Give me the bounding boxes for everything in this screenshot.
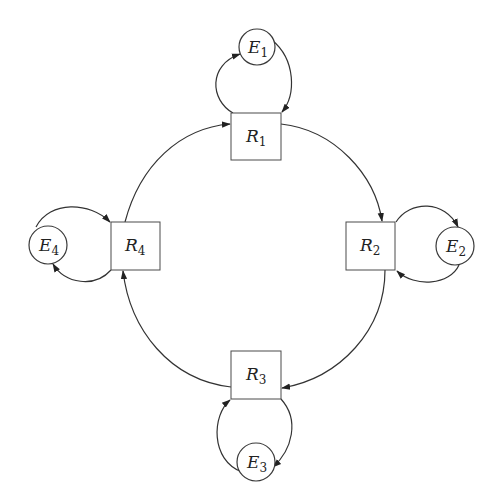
edge-e4-to-r4 xyxy=(36,207,110,227)
edge-r1-to-e1 xyxy=(216,54,240,113)
edge-r2-to-e2 xyxy=(396,206,458,227)
edge-r4-to-e4 xyxy=(53,264,111,281)
node-r4: R4 xyxy=(111,222,160,270)
node-e1: E1 xyxy=(239,29,275,65)
node-r1: R1 xyxy=(231,113,281,160)
edge-r4-to-r1 xyxy=(125,124,230,222)
edge-r1-to-r2 xyxy=(281,124,382,221)
node-e4: E4 xyxy=(29,226,67,264)
node-e2: E2 xyxy=(436,227,474,265)
node-r2: R2 xyxy=(346,222,395,270)
edge-e2-to-r2 xyxy=(397,265,459,282)
edge-r2-to-r3 xyxy=(282,270,385,388)
node-e3: E3 xyxy=(237,443,275,481)
edge-r3-to-e3 xyxy=(273,399,292,467)
cycle-diagram: R1 R2 R3 R4 E1 E2 E3 E4 xyxy=(0,0,501,504)
node-r3: R3 xyxy=(231,351,281,399)
edge-r3-to-r4 xyxy=(123,271,231,387)
